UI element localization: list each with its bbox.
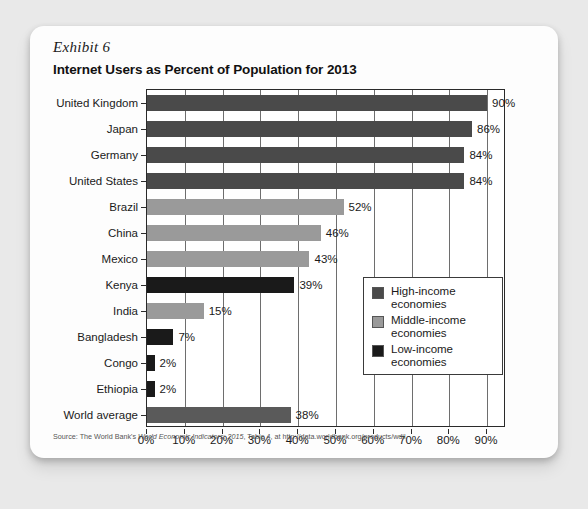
bar-value-label: 46% xyxy=(321,225,349,241)
chart-bar xyxy=(147,199,344,215)
bar-value-label: 2% xyxy=(155,355,177,371)
chart-bar xyxy=(147,355,155,371)
category-label: India xyxy=(26,298,147,324)
legend-swatch-icon xyxy=(372,287,384,299)
category-label: United States xyxy=(26,168,147,194)
source-note: Source: The World Bank's World Economic … xyxy=(53,432,406,441)
chart-row: Brazil52% xyxy=(147,194,504,220)
chart-legend: High-incomeeconomiesMiddle-incomeeconomi… xyxy=(363,277,503,375)
category-label: World average xyxy=(26,402,147,428)
chart-row: United Kingdom90% xyxy=(147,90,504,116)
x-axis-label: 90% xyxy=(475,434,498,446)
category-label: China xyxy=(26,220,147,246)
chart-row: China46% xyxy=(147,220,504,246)
chart-bar xyxy=(147,147,464,163)
chart-row: United States84% xyxy=(147,168,504,194)
category-label: Brazil xyxy=(26,194,147,220)
category-label: Congo xyxy=(26,350,147,376)
source-suffix: , Table 4, at http://data.worldbank.org/… xyxy=(243,432,405,441)
chart-row: Ethiopia2% xyxy=(147,376,504,402)
category-label: Ethiopia xyxy=(26,376,147,402)
bar-value-label: 15% xyxy=(204,303,232,319)
chart-bar xyxy=(147,407,291,423)
exhibit-card: Exhibit 6 Internet Users as Percent of P… xyxy=(30,26,558,458)
chart-bar xyxy=(147,303,204,319)
bar-value-label: 7% xyxy=(173,329,195,345)
legend-item: Low-incomeeconomies xyxy=(372,343,494,368)
category-label: Mexico xyxy=(26,246,147,272)
bar-value-label: 84% xyxy=(464,173,492,189)
legend-label-line2: economies xyxy=(391,298,456,311)
legend-swatch-icon xyxy=(372,345,384,357)
legend-label: Middle-incomeeconomies xyxy=(391,314,466,339)
category-label: Japan xyxy=(26,116,147,142)
legend-label-line1: Middle-income xyxy=(391,314,466,327)
legend-label: Low-incomeeconomies xyxy=(391,343,453,368)
category-label: United Kingdom xyxy=(26,90,147,116)
bar-value-label: 52% xyxy=(344,199,372,215)
chart-bar xyxy=(147,329,173,345)
bar-value-label: 39% xyxy=(294,277,322,293)
legend-item: High-incomeeconomies xyxy=(372,285,494,310)
category-label: Bangladesh xyxy=(26,324,147,350)
page-title: Internet Users as Percent of Population … xyxy=(53,62,357,77)
category-label: Germany xyxy=(26,142,147,168)
chart-row: Germany84% xyxy=(147,142,504,168)
bar-value-label: 43% xyxy=(309,251,337,267)
chart-bar xyxy=(147,277,294,293)
chart-bar xyxy=(147,95,487,111)
legend-label-line2: economies xyxy=(391,356,453,369)
legend-label-line1: High-income xyxy=(391,285,456,298)
x-axis-label: 80% xyxy=(437,434,460,446)
legend-swatch-icon xyxy=(372,316,384,328)
chart-row: Japan86% xyxy=(147,116,504,142)
bar-value-label: 84% xyxy=(464,147,492,163)
legend-label: High-incomeeconomies xyxy=(391,285,456,310)
source-prefix: Source: The World Bank's xyxy=(53,432,138,441)
exhibit-label: Exhibit 6 xyxy=(53,39,110,56)
bar-value-label: 2% xyxy=(155,381,177,397)
bar-value-label: 86% xyxy=(472,121,500,137)
chart-bar xyxy=(147,121,472,137)
bar-value-label: 38% xyxy=(291,407,319,423)
category-label: Kenya xyxy=(26,272,147,298)
bar-value-label: 90% xyxy=(487,95,515,111)
source-italic-title: World Economic Indicators: 2015 xyxy=(138,432,243,441)
chart-row: World average38% xyxy=(147,402,504,428)
legend-label-line2: economies xyxy=(391,327,466,340)
legend-label-line1: Low-income xyxy=(391,343,453,356)
chart-bar xyxy=(147,173,464,189)
chart-bar xyxy=(147,225,321,241)
chart-plot-area: United Kingdom90%Japan86%Germany84%Unite… xyxy=(146,89,505,427)
chart-bar xyxy=(147,381,155,397)
chart-bar xyxy=(147,251,309,267)
legend-item: Middle-incomeeconomies xyxy=(372,314,494,339)
chart-row: Mexico43% xyxy=(147,246,504,272)
